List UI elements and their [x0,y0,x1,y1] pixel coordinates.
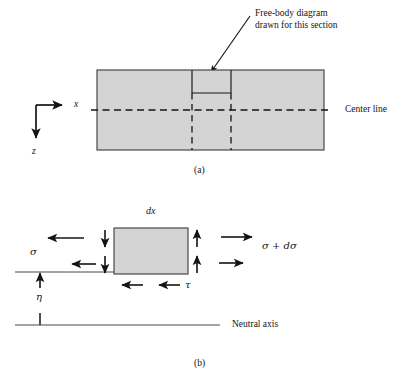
neutral-axis-label: Neutral axis [232,319,278,330]
axis-z-label: z [32,146,36,157]
annotation-line-2: drawn for this section [255,20,338,31]
figure-vector-layer [0,0,407,384]
center-line-label: Center line [345,104,387,115]
annotation-leader-line [211,16,250,72]
differential-element-body [114,228,188,274]
dx-label: dx [146,205,155,217]
figure-container: Free-body diagram drawn for this section… [0,0,407,384]
annotation-line-1: Free-body diagram [255,8,328,19]
caption-a: (a) [194,165,205,176]
eta-label: η [36,291,42,303]
panel-a-graphics [36,16,331,150]
panel-b-graphics [15,228,252,325]
sigma-plus-dsigma-label: σ + dσ [262,240,297,252]
axis-x-label: x [74,99,78,110]
sigma-label: σ [30,246,37,258]
caption-b: (b) [194,358,205,369]
tau-label: τ [185,279,191,291]
